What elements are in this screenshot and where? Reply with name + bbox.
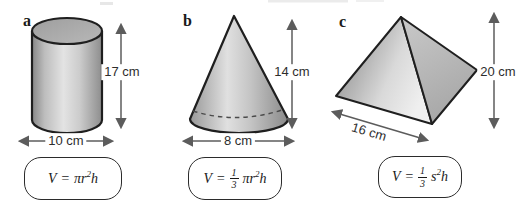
formula-equals: = [216, 171, 225, 187]
diagram-canvas: a b c 17 cm 10 cm 14 cm 8 cm 16 cm 20 cm… [0, 0, 521, 208]
formula-lhs: V [204, 171, 213, 187]
figure-letter-c: c [339, 14, 346, 30]
figure-letter-a: a [23, 13, 31, 29]
pyramid-height-label: 20 cm [477, 64, 518, 80]
formula-lhs: V [48, 171, 57, 187]
formula-fraction: 1 3 [418, 165, 427, 189]
figure-letter-b: b [183, 13, 192, 29]
formula-lhs: V [392, 169, 401, 185]
formula-fraction: 1 3 [230, 167, 239, 191]
cone-volume-formula: V = 1 3 πr2h [188, 157, 282, 200]
cylinder-height-label: 17 cm [101, 64, 142, 80]
formula-term: πr2h [74, 171, 98, 187]
cylinder-volume-formula: V = πr2h [24, 157, 122, 200]
formula-equals: = [405, 169, 414, 185]
pyramid-shape [336, 17, 477, 124]
scan-artifact [100, 0, 384, 5]
formula-equals: = [61, 171, 70, 187]
formula-term: πr2h [243, 171, 267, 187]
formula-term: s2h [431, 169, 448, 185]
pyramid-volume-formula: V = 1 3 s2h [378, 156, 462, 198]
cylinder-shape [32, 18, 102, 133]
cone-height-label: 14 cm [271, 64, 312, 80]
cone-diameter-label: 8 cm [221, 133, 255, 149]
cylinder-diameter-label: 10 cm [45, 133, 86, 149]
